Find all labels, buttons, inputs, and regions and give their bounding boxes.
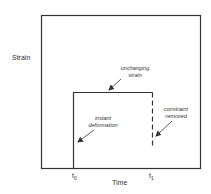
tick-t0-sub: 0 xyxy=(74,175,77,181)
annotation-constraint-removed-line1: constraint xyxy=(164,106,188,112)
annotation-constraint-removed: constraint removed xyxy=(156,106,188,136)
y-axis-label: Strain xyxy=(12,54,30,61)
arrow-icon xyxy=(109,79,121,90)
x-axis-label: Time xyxy=(112,179,127,186)
strain-time-diagram: Strain Time t0 t1 unchanging strain cons… xyxy=(0,0,211,194)
tick-t1-sub: 1 xyxy=(151,175,154,181)
annotation-unchanging-strain-line2: strain xyxy=(128,72,141,78)
annotation-instant-deformation: instant deformation xyxy=(78,115,118,142)
annotation-unchanging-strain: unchanging strain xyxy=(109,65,150,90)
strain-curve xyxy=(74,93,153,169)
arrow-icon xyxy=(156,121,172,136)
annotation-unchanging-strain-line1: unchanging xyxy=(121,65,150,71)
annotation-instant-deformation-line1: instant xyxy=(95,115,112,121)
tick-t1: t1 xyxy=(149,172,154,181)
annotation-constraint-removed-line2: removed xyxy=(165,113,187,119)
tick-t0: t0 xyxy=(72,172,77,181)
annotation-instant-deformation-line2: deformation xyxy=(88,122,117,128)
arrow-icon xyxy=(78,130,94,142)
